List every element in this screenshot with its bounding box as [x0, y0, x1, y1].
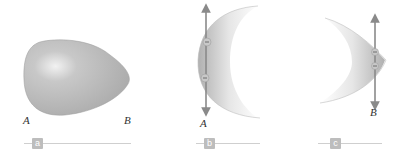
point-label-b: B: [124, 114, 131, 126]
panel-a-egg: [24, 40, 130, 115]
diagram-svg: [0, 0, 404, 161]
panel-c-rule: [318, 143, 382, 144]
point-label-b-detail: B: [370, 106, 377, 118]
figure: A B A B a b c: [0, 0, 404, 161]
panel-c-pointed-end: [320, 18, 386, 106]
panel-badge-b: b: [204, 138, 215, 149]
point-label-a-detail: A: [200, 117, 207, 129]
panel-badge-c: c: [330, 138, 341, 149]
panel-badge-a: a: [32, 138, 43, 149]
point-label-a: A: [23, 114, 30, 126]
panel-b-blunt-end: [198, 6, 260, 118]
